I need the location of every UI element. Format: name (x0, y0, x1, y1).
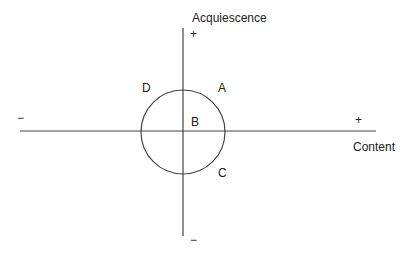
vertical-axis-negative: − (190, 234, 197, 246)
region-label-d: D (142, 82, 151, 94)
horizontal-axis-label: Content (353, 141, 395, 153)
horizontal-axis-negative: − (17, 112, 24, 124)
vertical-axis-positive: + (190, 28, 197, 40)
region-label-a: A (218, 82, 226, 94)
horizontal-axis-positive: + (355, 114, 362, 126)
region-label-c: C (218, 167, 227, 179)
diagram-canvas (0, 0, 411, 253)
region-label-b: B (191, 116, 199, 128)
vertical-axis-label: Acquiescence (192, 12, 267, 24)
